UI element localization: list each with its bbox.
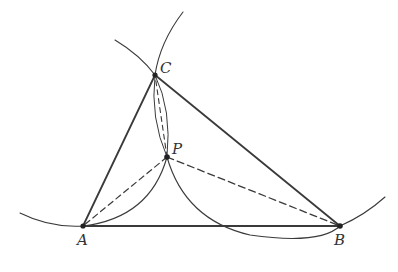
label-B: B: [334, 233, 345, 248]
dashed-PB: [167, 157, 340, 226]
arc-left-through-A: [20, 157, 167, 226]
point-A-marker: [80, 223, 85, 228]
point-P-marker: [164, 154, 170, 160]
label-A: A: [77, 233, 88, 248]
label-P: P: [172, 142, 182, 157]
side-CA: [83, 75, 155, 226]
arc-top-left: [115, 40, 155, 75]
dashed-PA: [83, 157, 167, 226]
point-C-marker: [152, 72, 157, 77]
point-B-marker: [337, 223, 343, 229]
label-C: C: [160, 61, 171, 76]
diagram-canvas: A B C P: [0, 0, 398, 272]
side-BC: [155, 75, 340, 226]
dashed-PC: [155, 75, 167, 157]
arc-lens-right: [155, 75, 168, 157]
